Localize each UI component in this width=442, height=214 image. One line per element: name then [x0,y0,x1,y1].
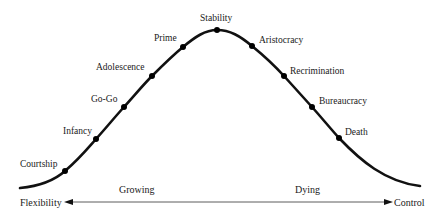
control-label: Control [394,197,425,208]
stage-label-courtship: Courtship [20,159,58,169]
growing-label: Growing [119,184,155,195]
stage-point-bureaucracy [309,104,315,110]
stage-point-death [336,135,342,141]
stage-label-infancy: Infancy [63,126,92,136]
stage-label-bureaucracy: Bureaucracy [319,96,367,106]
stage-point-courtship [62,168,68,174]
stage-label-go-go: Go-Go [91,94,118,104]
stage-label-recrimination: Recrimination [290,66,345,76]
stage-point-go-go [121,104,127,110]
stage-point-stability [214,27,220,33]
stage-label-stability: Stability [200,13,232,23]
right-arrowhead-icon [384,199,393,205]
stage-point-infancy [93,136,99,142]
stage-label-aristocracy: Aristocracy [259,35,304,45]
stage-point-adolescence [149,73,155,79]
lifecycle-curve [20,30,420,188]
stage-point-aristocracy [249,43,255,49]
left-arrowhead-icon [64,199,73,205]
dying-label: Dying [295,184,320,195]
flexibility-label: Flexibility [20,197,62,208]
lifecycle-diagram: CourtshipInfancyGo-GoAdolescencePrimeSta… [0,0,442,214]
stage-label-adolescence: Adolescence [96,62,145,72]
stage-point-recrimination [281,73,287,79]
stage-point-prime [180,44,186,50]
stage-label-death: Death [345,127,368,137]
stage-label-prime: Prime [154,33,177,43]
